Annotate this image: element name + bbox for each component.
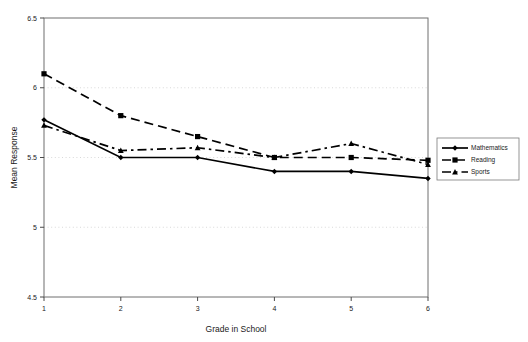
x-tick-label: 6 [426,305,430,312]
x-tick-label: 1 [42,305,46,312]
y-axis-tick-labels: 4.555.566.5 [27,15,37,301]
line-chart-figure: 4.555.566.5 123456 Grade in School Mean … [0,0,528,342]
legend-label: Reading [471,156,496,164]
y-tick-label: 6 [33,84,37,91]
series-sports [41,122,431,167]
x-axis-title: Grade in School [206,324,267,334]
data-point-marker-triangle [41,122,47,128]
legend-label: Sports [471,168,491,176]
data-point-marker-square [452,157,457,162]
data-point-marker-diamond [118,155,123,160]
data-point-marker-triangle [348,140,354,146]
data-point-marker-square [118,113,123,118]
data-point-marker-diamond [41,117,46,122]
y-tick-label: 6.5 [27,15,37,22]
y-tick-label: 4.5 [27,294,37,301]
y-axis-title: Mean Response [9,126,19,188]
x-tick-label: 4 [272,305,276,312]
data-point-marker-diamond [425,176,430,181]
data-point-marker-diamond [349,169,354,174]
data-point-marker-square [195,134,200,139]
data-point-marker-diamond [272,169,277,174]
x-axis-ticks-group [44,297,428,301]
y-tick-label: 5 [33,224,37,231]
data-point-marker-diamond [195,155,200,160]
x-tick-label: 2 [119,305,123,312]
chart-legend: MathematicsReadingSports [437,138,519,180]
x-tick-label: 3 [196,305,200,312]
y-axis-ticks-group [40,18,44,297]
y-tick-label: 5.5 [27,154,37,161]
x-tick-label: 5 [349,305,353,312]
x-axis-tick-labels: 123456 [42,305,430,312]
data-point-marker-square [349,155,354,160]
legend-label: Mathematics [471,144,509,151]
data-point-marker-square [41,71,46,76]
